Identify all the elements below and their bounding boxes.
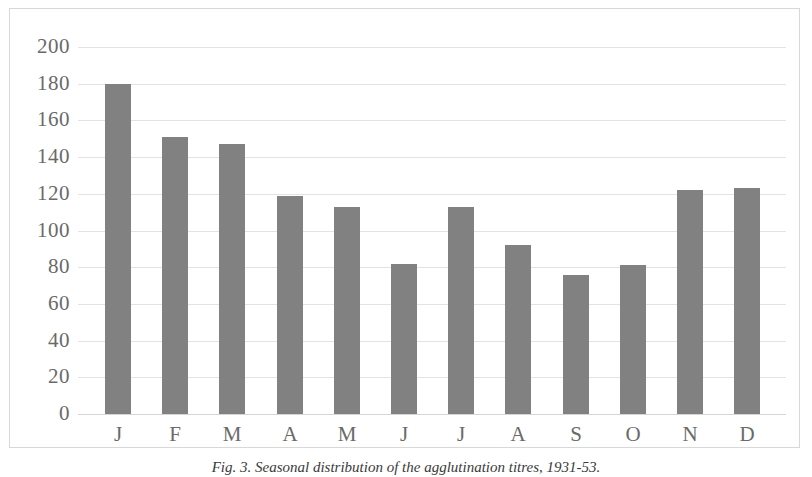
y-axis-tick-label: 100 (22, 220, 70, 241)
x-axis: JFMAMJJASOND (78, 421, 786, 453)
y-axis-tick-label: 140 (22, 146, 70, 167)
x-axis-tick-label: S (563, 421, 589, 447)
bar (620, 265, 646, 414)
bar (162, 137, 188, 414)
x-axis-tick-label: M (219, 421, 245, 447)
y-axis-tick-label: 20 (22, 366, 70, 387)
chart-frame: 200180160140120100806040200 JFMAMJJASOND (9, 8, 800, 448)
y-axis-tick-label: 180 (22, 73, 70, 94)
bar (277, 196, 303, 414)
y-axis-tick-label: 60 (22, 293, 70, 314)
bar (563, 275, 589, 414)
y-axis-tick-label: 160 (22, 109, 70, 130)
x-axis-tick-label: J (448, 421, 474, 447)
figure-caption: Fig. 3. Seasonal distribution of the agg… (0, 458, 812, 477)
bar (505, 245, 531, 414)
x-axis-tick-label: M (334, 421, 360, 447)
bar (391, 264, 417, 414)
x-axis-tick-label: D (734, 421, 760, 447)
y-axis-tick-label: 120 (22, 183, 70, 204)
bar (219, 144, 245, 414)
bar (334, 207, 360, 414)
bar (448, 207, 474, 414)
x-axis-tick-label: A (277, 421, 303, 447)
gridline (78, 47, 786, 48)
gridline (78, 120, 786, 121)
bar (734, 188, 760, 414)
gridline (78, 84, 786, 85)
y-axis-tick-label: 40 (22, 330, 70, 351)
x-axis-tick-label: F (162, 421, 188, 447)
y-axis-tick-label: 200 (22, 36, 70, 57)
bar (105, 84, 131, 414)
y-axis-tick-label: 0 (22, 403, 70, 424)
bar (677, 190, 703, 414)
y-axis-tick-label: 80 (22, 256, 70, 277)
figure-container: 200180160140120100806040200 JFMAMJJASOND… (0, 0, 812, 477)
plot-area (78, 47, 786, 414)
x-axis-tick-label: J (391, 421, 417, 447)
x-axis-tick-label: O (620, 421, 646, 447)
x-axis-tick-label: A (505, 421, 531, 447)
y-axis: 200180160140120100806040200 (18, 47, 70, 414)
x-axis-tick-label: N (677, 421, 703, 447)
x-axis-tick-label: J (105, 421, 131, 447)
gridline (78, 414, 786, 415)
